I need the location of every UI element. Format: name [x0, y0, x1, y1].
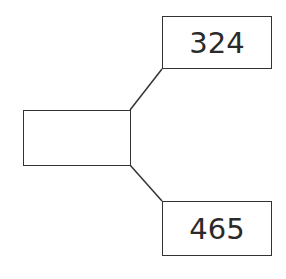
part-value-top: 324: [189, 26, 244, 60]
connector-top: [130, 69, 162, 110]
whole-box[interactable]: [23, 110, 131, 166]
part-box-bottom: 465: [162, 201, 272, 256]
connector-bottom: [130, 165, 162, 201]
part-box-top: 324: [162, 16, 272, 69]
part-value-bottom: 465: [189, 212, 244, 246]
